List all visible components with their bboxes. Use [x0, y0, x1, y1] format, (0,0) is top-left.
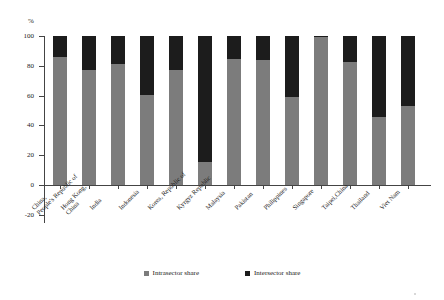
x-tick-2 [118, 185, 119, 189]
x-label-taipei-china: Taipei,China [320, 182, 349, 211]
x-tick-12 [408, 185, 409, 189]
x-label-line1: Philippines [262, 185, 288, 211]
legend-item-intrasector[interactable]: Intrasector share [144, 269, 199, 277]
segment-intersector [198, 36, 212, 162]
segment-intersector [401, 36, 415, 106]
plot-area [44, 36, 429, 185]
y-tick-label-80: 80 [8, 62, 34, 70]
black-square-icon [245, 271, 250, 276]
segment-intrasector [372, 117, 386, 186]
segment-intersector [140, 36, 154, 95]
legend-item-intersector[interactable]: Intersector share [245, 269, 300, 277]
x-tick-1 [89, 185, 90, 189]
y-tick-label-minus20: -20 [8, 211, 34, 219]
x-label-india: India [88, 196, 103, 211]
x-label-line1: Taipei,China [320, 182, 349, 211]
segment-intersector [256, 36, 270, 60]
segment-intrasector [227, 59, 241, 185]
x-label-line1: Malaysia [204, 189, 226, 211]
y-axis-unit-label: % [28, 17, 34, 25]
x-label-line1: Singapore [291, 187, 315, 211]
segment-intersector [343, 36, 357, 62]
segment-intersector [53, 36, 67, 57]
x-label-line1: Indonesia [117, 188, 140, 211]
x-label-singapore: Singapore [291, 187, 315, 211]
segment-intersector [111, 36, 125, 64]
x-label-line1: Pakistan [233, 190, 254, 211]
segment-intrasector [343, 62, 357, 185]
x-tick-7 [263, 185, 264, 189]
y-tick-label-100: 100 [8, 32, 34, 40]
x-tick-11 [379, 185, 380, 189]
x-tick-10 [350, 185, 351, 189]
x-label-malaysia: Malaysia [204, 189, 226, 211]
segment-intrasector [314, 37, 328, 185]
segment-intrasector [82, 70, 96, 185]
legend-label-intrasector: Intrasector share [153, 269, 199, 277]
segment-intrasector [401, 106, 415, 185]
segment-intersector [169, 36, 183, 70]
x-label-pakistan: Pakistan [233, 190, 254, 211]
y-tick-label-0: 0 [8, 181, 34, 189]
x-axis-line [44, 185, 431, 186]
x-tick-3 [147, 185, 148, 189]
x-label-line1: Viet Nam [378, 188, 401, 211]
chart-legend: Intrasector share Intersector share [0, 269, 444, 277]
x-label-viet-nam: Viet Nam [378, 188, 401, 211]
segment-intersector [82, 36, 96, 70]
segment-intrasector [111, 64, 125, 185]
y-tick-0 [39, 185, 45, 186]
segment-intersector [285, 36, 299, 97]
segment-intrasector [256, 60, 270, 185]
legend-label-intersector: Intersector share [254, 269, 300, 277]
x-tick-9 [321, 185, 322, 189]
x-label-indonesia: Indonesia [117, 188, 140, 211]
x-tick-6 [234, 185, 235, 189]
corner-mark [414, 293, 416, 295]
y-tick-label-40: 40 [8, 121, 34, 129]
segment-intrasector [53, 57, 67, 185]
y-tick-label-20: 20 [8, 151, 34, 159]
segment-intrasector [169, 70, 183, 185]
x-label-line1: India [88, 196, 103, 211]
segment-intrasector [140, 95, 154, 185]
chart-figure: % 100 80 60 40 20 0 -20 [0, 0, 444, 300]
segment-intersector [372, 36, 386, 117]
x-label-line1: Thailand [349, 189, 371, 211]
y-tick-label-60: 60 [8, 92, 34, 100]
gray-square-icon [144, 271, 149, 276]
segment-intersector [227, 36, 241, 59]
x-label-thailand: Thailand [349, 189, 371, 211]
x-tick-8 [292, 185, 293, 189]
x-label-philippines: Philippines [262, 185, 288, 211]
segment-intrasector [285, 97, 299, 185]
segment-intersector [314, 36, 328, 37]
